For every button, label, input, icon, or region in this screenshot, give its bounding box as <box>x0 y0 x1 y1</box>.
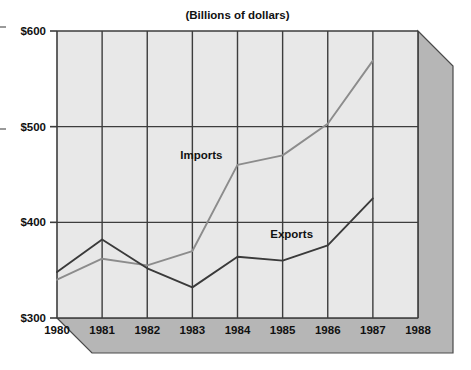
y-axis-ticks <box>50 31 57 318</box>
y-tick-label-600: $600 <box>20 25 46 37</box>
y-tick-label-500: $500 <box>20 121 46 133</box>
x-tick-label-1981: 1981 <box>89 324 115 336</box>
x-tick-label-1986: 1986 <box>315 324 341 336</box>
x-tick-label-1980: 1980 <box>44 324 70 336</box>
chart-title: (Billions of dollars) <box>185 9 289 21</box>
x-axis-labels: 198019811982198319841985198619871988 <box>44 324 431 336</box>
series-label-exports: Exports <box>270 228 313 240</box>
series-label-imports: Imports <box>180 149 222 161</box>
x-tick-label-1987: 1987 <box>360 324 386 336</box>
x-tick-label-1985: 1985 <box>270 324 296 336</box>
chart-svg: $300$400$500$600198019811982198319841985… <box>0 0 471 370</box>
x-tick-label-1983: 1983 <box>180 324 206 336</box>
y-tick-label-300: $300 <box>20 312 46 324</box>
y-axis-labels: $300$400$500$600 <box>20 25 46 324</box>
x-tick-label-1988: 1988 <box>405 324 431 336</box>
chart-figure: $300$400$500$600198019811982198319841985… <box>0 0 471 370</box>
x-tick-label-1982: 1982 <box>134 324 160 336</box>
x-tick-label-1984: 1984 <box>225 324 251 336</box>
page-edge-marker-mid <box>0 128 6 130</box>
page-edge-marker-top <box>0 26 6 28</box>
y-tick-label-400: $400 <box>20 216 46 228</box>
